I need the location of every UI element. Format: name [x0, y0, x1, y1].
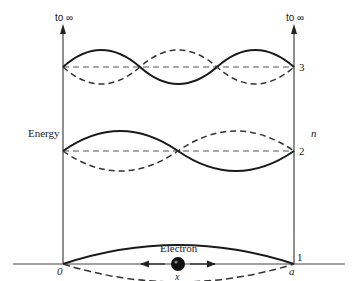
- energy-axis-label: Energy: [28, 128, 60, 139]
- level-3-wave: [63, 50, 294, 84]
- level-2-label: 2: [299, 146, 305, 157]
- x-axis-label: x: [175, 272, 179, 281]
- box-width-label: a: [289, 266, 295, 277]
- left-axis-arrow-icon: [60, 24, 66, 34]
- arrow-right-icon: [207, 261, 216, 268]
- diagram-canvas: [0, 0, 364, 281]
- right-axis: [291, 24, 297, 264]
- origin-label: 0: [57, 266, 63, 277]
- electron-group: [140, 257, 216, 271]
- level-2-wave: [63, 131, 294, 171]
- left-axis: [60, 24, 66, 264]
- level-1-label: 1: [297, 252, 303, 263]
- left-infinity-label: to ∞: [55, 13, 73, 23]
- quantum-number-label: n: [311, 128, 317, 139]
- electron-dot-icon: [171, 257, 185, 271]
- electron-label: Electron: [160, 243, 197, 254]
- arrow-left-icon: [140, 261, 149, 268]
- level-3-label: 3: [299, 62, 305, 73]
- energy-level-diagram: to ∞ to ∞ Energy n 3 2 1 0 a x Electron: [0, 0, 364, 281]
- right-axis-arrow-icon: [291, 24, 297, 34]
- right-infinity-label: to ∞: [286, 13, 304, 23]
